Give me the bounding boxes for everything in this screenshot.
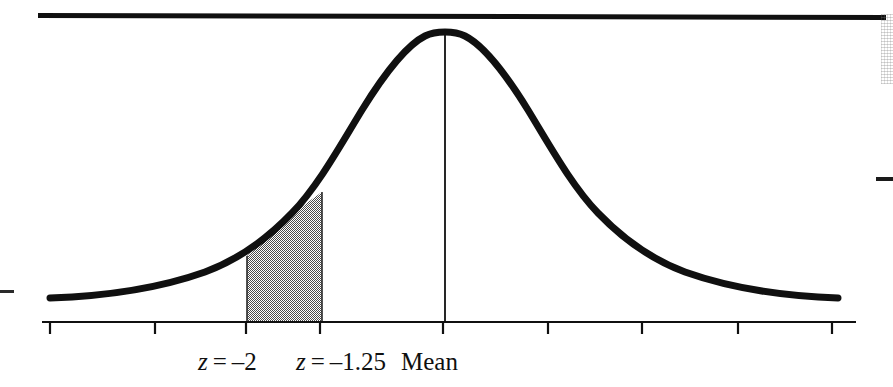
normal-distribution-figure: z=–2 z=–1.25 Mean	[0, 0, 893, 387]
z-upper-value: –1.25	[329, 348, 386, 375]
equals-sign-lower: =	[213, 348, 227, 375]
z-symbol-lower: z	[197, 348, 208, 375]
scan-artifact-left-dash	[0, 290, 14, 293]
top-rule	[38, 16, 886, 18]
label-mean: Mean	[401, 348, 458, 375]
bell-curve	[50, 32, 838, 298]
z-lower-value: –2	[231, 348, 257, 375]
distribution-chart-canvas: z=–2 z=–1.25 Mean	[0, 0, 893, 387]
label-z-upper-bound: z=–1.25	[295, 348, 386, 375]
label-z-lower-bound: z=–2	[197, 348, 257, 375]
x-axis-ticks	[50, 322, 832, 334]
scan-artifact-right-dash	[876, 177, 893, 181]
equals-sign-upper: =	[311, 348, 325, 375]
z-symbol-upper: z	[295, 348, 306, 375]
shaded-area-region	[247, 192, 322, 322]
